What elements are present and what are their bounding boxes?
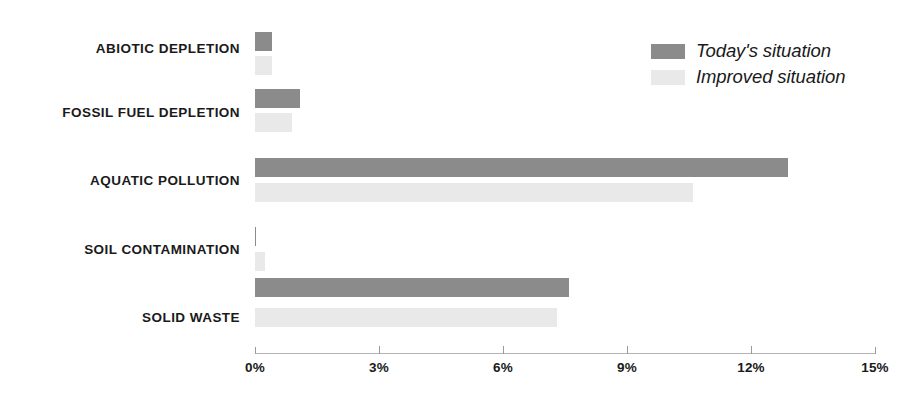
- x-axis-right-endcap: [875, 347, 876, 354]
- x-axis-tick-label: 6%: [493, 360, 513, 375]
- bar-improved-solid-waste: [255, 308, 557, 327]
- bar-chart: Today's situation Improved situation ABI…: [0, 0, 911, 401]
- category-label-abiotic-depletion: ABIOTIC DEPLETION: [10, 41, 240, 56]
- bar-today-solid-waste: [255, 278, 569, 297]
- category-label-solid-waste: SOLID WASTE: [10, 310, 240, 325]
- bar-improved-aquatic-pollution: [255, 183, 693, 202]
- category-label-soil-contamination: SOIL CONTAMINATION: [10, 242, 240, 257]
- x-axis-left-endcap: [255, 347, 256, 354]
- bar-improved-fossil-fuel-depletion: [255, 113, 292, 132]
- x-axis-line: [255, 353, 875, 354]
- x-axis-tick: [627, 346, 628, 354]
- x-axis-tick: [379, 346, 380, 354]
- x-axis-tick-label: 12%: [737, 360, 765, 375]
- x-axis-tick-label: 9%: [617, 360, 637, 375]
- bar-today-fossil-fuel-depletion: [255, 89, 300, 108]
- x-axis-tick-label: 15%: [861, 360, 889, 375]
- bar-today-soil-contamination: [255, 227, 256, 246]
- x-axis-tick: [503, 346, 504, 354]
- bar-improved-abiotic-depletion: [255, 56, 272, 75]
- category-label-aquatic-pollution: AQUATIC POLLUTION: [10, 173, 240, 188]
- category-label-fossil-fuel-depletion: FOSSIL FUEL DEPLETION: [10, 105, 240, 120]
- x-axis-tick: [751, 346, 752, 354]
- x-axis-tick-label: 3%: [369, 360, 389, 375]
- bar-today-aquatic-pollution: [255, 158, 788, 177]
- bar-improved-soil-contamination: [255, 252, 265, 271]
- plot-area: ABIOTIC DEPLETION FOSSIL FUEL DEPLETION …: [0, 0, 911, 401]
- bar-today-abiotic-depletion: [255, 32, 272, 51]
- x-axis-tick-label: 0%: [245, 360, 265, 375]
